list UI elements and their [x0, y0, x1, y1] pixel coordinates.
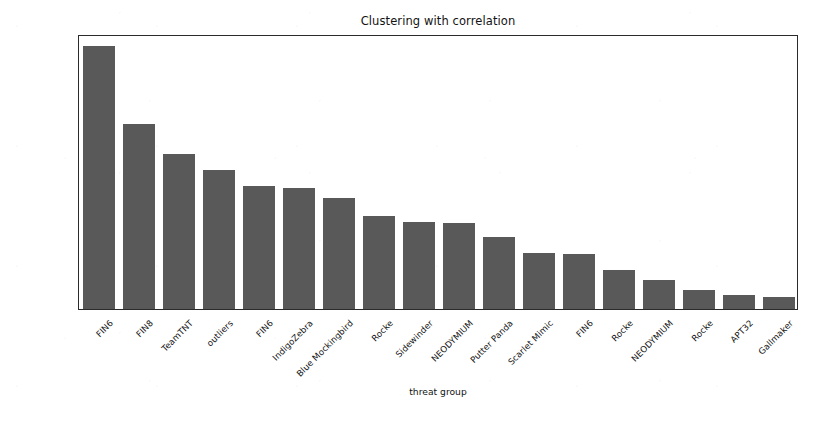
- y-tick-minor: [78, 151, 79, 152]
- bar: [163, 154, 195, 309]
- y-tick-minor: [78, 54, 79, 55]
- bar: [603, 270, 635, 310]
- x-tick-label: FIN8: [134, 318, 155, 339]
- y-tick-minor: [78, 268, 79, 269]
- bar: [723, 295, 755, 309]
- y-tick-minor: [78, 177, 79, 178]
- chart-title: Clustering with correlation: [78, 14, 798, 28]
- bar: [363, 216, 395, 309]
- y-tick-minor: [78, 289, 79, 290]
- x-tick-label: Rocke: [610, 318, 635, 343]
- x-tick-label: FIN6: [574, 318, 595, 339]
- y-tick-minor: [78, 299, 79, 300]
- y-tick-minor: [78, 81, 79, 82]
- y-tick-minor: [78, 66, 79, 67]
- y-tick-minor: [78, 145, 79, 146]
- bar: [643, 280, 675, 309]
- y-tick-minor: [78, 44, 79, 45]
- x-tick-label: outliers: [205, 318, 235, 348]
- bar: [523, 253, 555, 309]
- y-tick-minor: [78, 204, 79, 205]
- x-tick-label: FIN6: [94, 318, 115, 339]
- bar: [243, 186, 275, 309]
- x-tick-label: TeamTNT: [159, 318, 195, 354]
- x-tick-label: APT32: [728, 318, 755, 345]
- bar: [683, 290, 715, 309]
- x-tick-label: Rocke: [370, 318, 395, 343]
- y-tick-major: [78, 140, 79, 141]
- bar: [403, 222, 435, 309]
- y-tick-minor: [78, 225, 79, 226]
- bar: [123, 124, 155, 309]
- bar: [483, 237, 515, 309]
- x-tick-label: NEODYMIUM: [629, 318, 675, 364]
- plot-area: 102103: [78, 35, 798, 310]
- x-tick-label: Sidewinder: [394, 318, 436, 360]
- y-tick-minor: [78, 281, 79, 282]
- x-tick-label: Rocke: [690, 318, 715, 343]
- x-tick-label: FIN6: [254, 318, 275, 339]
- bar: [323, 198, 355, 309]
- x-tick-label-group: FIN6FIN8TeamTNToutliersFIN6IndigoZebraBl…: [78, 310, 798, 380]
- bar: [83, 46, 115, 309]
- y-tick-minor: [78, 36, 79, 37]
- bars-layer: [79, 36, 797, 309]
- y-tick-minor: [78, 188, 79, 189]
- bar: [563, 254, 595, 309]
- chart-figure: Clustering with correlation 102103 Occur…: [0, 0, 825, 430]
- y-tick-minor: [78, 167, 79, 168]
- bar: [763, 297, 795, 309]
- bar: [443, 223, 475, 309]
- y-tick-minor: [78, 103, 79, 104]
- bar: [203, 170, 235, 309]
- x-axis-label: threat group: [78, 386, 798, 397]
- x-tick-label: Gallmaker: [756, 318, 795, 357]
- bar: [283, 188, 315, 309]
- y-tick-minor: [78, 159, 79, 160]
- y-tick-minor: [78, 274, 79, 275]
- y-tick-major: [78, 262, 79, 263]
